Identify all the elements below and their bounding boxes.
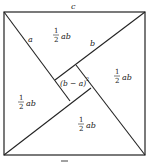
area-inner-square: (b − a) 2 — [60, 76, 89, 88]
svg-text:2: 2 — [19, 103, 23, 111]
svg-text:ab: ab — [61, 32, 71, 41]
label-a: a — [28, 35, 33, 44]
line-bottom — [4, 88, 91, 155]
svg-text:2: 2 — [79, 125, 83, 133]
svg-text:2: 2 — [54, 36, 58, 44]
line-b — [55, 12, 145, 80]
pythagorean-diagram: c a b 1 2 ab 1 2 ab 1 2 ab 1 2 ab (b − a… — [0, 0, 148, 163]
svg-text:2: 2 — [115, 77, 119, 85]
svg-text:1: 1 — [19, 94, 23, 102]
svg-text:ab: ab — [122, 73, 132, 82]
svg-text:1: 1 — [115, 68, 119, 76]
svg-text:(b − a): (b − a) — [60, 79, 86, 88]
area-bottom: 1 2 ab — [78, 116, 96, 133]
svg-text:ab: ab — [26, 99, 36, 108]
area-left: 1 2 ab — [18, 94, 36, 111]
label-c: c — [71, 2, 76, 11]
area-top: 1 2 ab — [53, 27, 71, 44]
svg-text:2: 2 — [86, 76, 89, 82]
svg-text:1: 1 — [79, 116, 83, 124]
svg-text:ab: ab — [86, 121, 96, 130]
svg-text:1: 1 — [54, 27, 58, 35]
area-right: 1 2 ab — [114, 68, 132, 85]
label-b: b — [90, 39, 95, 48]
